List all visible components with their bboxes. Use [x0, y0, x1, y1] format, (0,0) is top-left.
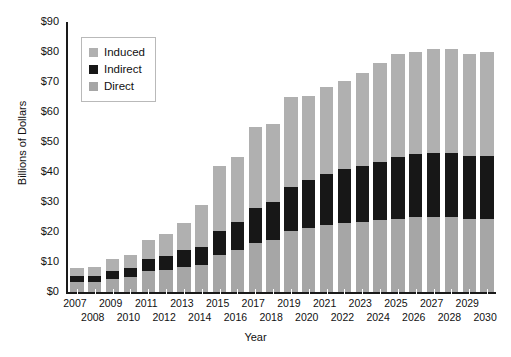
x-axis-tick-mark	[95, 289, 96, 294]
bar-segment-induced-2008	[88, 267, 101, 276]
bar-segment-direct-2024	[373, 220, 386, 292]
bar-segment-induced-2015	[213, 166, 226, 231]
x-axis-tick-label-2022: 2022	[325, 311, 359, 323]
bar-segment-indirect-2010	[124, 268, 137, 277]
legend-swatch-direct-icon	[89, 82, 98, 91]
x-axis-tick-mark	[398, 289, 399, 294]
x-axis-tick-mark	[113, 289, 114, 294]
x-axis-tick-label-2027: 2027	[415, 297, 449, 309]
bar-2029[interactable]	[463, 54, 476, 293]
x-axis-tick-mark	[380, 289, 381, 294]
bar-segment-indirect-2025	[391, 157, 404, 219]
bar-segment-indirect-2027	[427, 153, 440, 218]
bar-segment-direct-2027	[427, 217, 440, 292]
bar-segment-direct-2025	[391, 219, 404, 293]
x-axis-tick-mark	[327, 289, 328, 294]
bar-segment-induced-2025	[391, 54, 404, 158]
bar-2028[interactable]	[445, 49, 458, 292]
bar-segment-direct-2014	[195, 265, 208, 292]
bar-segment-indirect-2024	[373, 162, 386, 221]
bar-segment-induced-2024	[373, 63, 386, 162]
bar-2020[interactable]	[302, 96, 315, 293]
bar-2017[interactable]	[249, 127, 262, 292]
bar-segment-direct-2023	[356, 222, 369, 293]
bar-segment-indirect-2026	[409, 154, 422, 217]
y-axis-tick-label: $20	[19, 226, 59, 237]
bar-segment-indirect-2009	[106, 271, 119, 279]
bar-2025[interactable]	[391, 54, 404, 293]
x-axis-tick-mark	[309, 289, 310, 294]
x-axis-tick-mark	[166, 289, 167, 294]
bar-2023[interactable]	[356, 73, 369, 292]
bar-2010[interactable]	[124, 255, 137, 293]
x-axis-tick-label-2009: 2009	[94, 297, 128, 309]
x-axis-tick-label-2030: 2030	[468, 311, 502, 323]
bar-2027[interactable]	[427, 49, 440, 292]
x-axis-tick-label-2012: 2012	[147, 311, 181, 323]
x-axis-tick-label-2028: 2028	[432, 311, 466, 323]
y-axis-tick-label: $90	[19, 16, 59, 27]
bar-segment-direct-2028	[445, 217, 458, 292]
x-axis-tick-mark	[291, 289, 292, 294]
bar-segment-indirect-2012	[159, 256, 172, 270]
bar-segment-direct-2015	[213, 255, 226, 293]
legend-item-indirect[interactable]: Indirect	[89, 61, 145, 78]
bar-2022[interactable]	[338, 81, 351, 293]
x-axis-tick-label-2023: 2023	[343, 297, 377, 309]
x-axis-tick-label-2017: 2017	[236, 297, 270, 309]
x-axis-tick-mark	[184, 289, 185, 294]
legend-item-direct[interactable]: Direct	[89, 78, 145, 95]
bar-2016[interactable]	[231, 157, 244, 292]
bar-segment-direct-2018	[266, 240, 279, 293]
x-axis-tick-label-2021: 2021	[308, 297, 342, 309]
bar-2018[interactable]	[266, 124, 279, 292]
bar-2024[interactable]	[373, 63, 386, 293]
x-axis-tick-label-2013: 2013	[165, 297, 199, 309]
bar-2011[interactable]	[142, 240, 155, 293]
x-axis-tick-label-2014: 2014	[183, 311, 217, 323]
x-axis-tick-label-2018: 2018	[254, 311, 288, 323]
bar-segment-induced-2026	[409, 52, 422, 154]
bar-segment-direct-2022	[338, 223, 351, 292]
bar-2014[interactable]	[195, 205, 208, 292]
bar-segment-induced-2020	[302, 96, 315, 180]
bar-segment-induced-2011	[142, 240, 155, 260]
bar-2015[interactable]	[213, 166, 226, 292]
bar-2019[interactable]	[284, 97, 297, 292]
y-axis-tick-label: $60	[19, 106, 59, 117]
y-axis-tick-label: $50	[19, 136, 59, 147]
bar-segment-indirect-2015	[213, 231, 226, 255]
bar-2009[interactable]	[106, 259, 119, 292]
bar-2030[interactable]	[480, 52, 493, 292]
bar-segment-indirect-2018	[266, 202, 279, 240]
bar-segment-indirect-2021	[320, 174, 333, 225]
bar-segment-direct-2016	[231, 250, 244, 292]
y-axis-tick-label: $70	[19, 76, 59, 87]
x-axis-tick-label-2008: 2008	[76, 311, 110, 323]
x-axis-tick-label-2011: 2011	[129, 297, 163, 309]
x-axis-tick-label-2025: 2025	[379, 297, 413, 309]
bar-2021[interactable]	[320, 87, 333, 293]
bar-segment-induced-2018	[266, 124, 279, 202]
bar-segment-induced-2021	[320, 87, 333, 174]
bar-segment-direct-2019	[284, 231, 297, 293]
bar-segment-induced-2030	[480, 52, 493, 156]
x-axis-title: Year	[0, 331, 511, 343]
bar-segment-indirect-2011	[142, 259, 155, 271]
x-axis-tick-mark	[77, 289, 78, 294]
legend-item-induced[interactable]: Induced	[89, 44, 145, 61]
bar-segment-indirect-2029	[463, 156, 476, 219]
bar-2013[interactable]	[177, 223, 190, 292]
x-axis-tick-mark	[273, 289, 274, 294]
x-axis-tick-mark	[148, 289, 149, 294]
x-axis-tick-mark	[202, 289, 203, 294]
x-axis-tick-mark	[416, 289, 417, 294]
bar-2012[interactable]	[159, 234, 172, 293]
bar-2026[interactable]	[409, 52, 422, 292]
bar-segment-induced-2029	[463, 54, 476, 156]
bar-segment-induced-2009	[106, 259, 119, 271]
bar-segment-induced-2014	[195, 205, 208, 247]
bar-segment-direct-2020	[302, 228, 315, 293]
x-axis-tick-label-2015: 2015	[201, 297, 235, 309]
bar-segment-direct-2026	[409, 217, 422, 292]
